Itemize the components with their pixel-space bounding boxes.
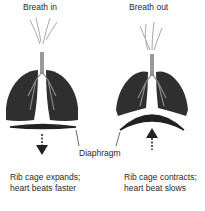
trachea-right <box>150 54 154 76</box>
arrow-down-icon <box>36 134 48 155</box>
right-caption-line1: Rib cage contracts; <box>124 172 197 183</box>
right-caption-line2: heart beat slows <box>124 183 186 194</box>
left-caption-line1: Rib cage expands; <box>10 172 80 183</box>
left-caption-line2: heart beats faster <box>10 183 76 194</box>
trachea-left <box>40 52 44 74</box>
diaphragm-label: Diaphragm <box>79 148 121 159</box>
arrow-up-icon <box>146 128 158 150</box>
diaphragm-leader-left <box>76 130 79 146</box>
diaphragm-flat <box>10 125 76 129</box>
lungs-right-icon <box>116 72 188 117</box>
diaphragm-domed <box>120 115 184 130</box>
diaphragm-leader-right <box>116 132 120 146</box>
lungs-left-icon <box>6 70 78 121</box>
inhale-air-arrows-icon <box>30 18 57 44</box>
exhale-air-arrows-icon <box>140 22 162 50</box>
